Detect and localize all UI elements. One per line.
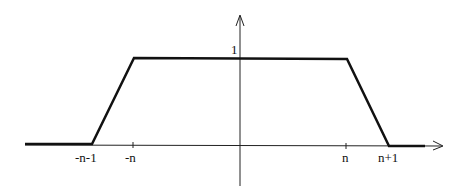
x-tick-label-neg-n: -n (125, 150, 136, 165)
trapezoid-function-diagram: 1 -n-1 -n n n+1 (0, 0, 466, 195)
x-tick-label-n: n (342, 150, 349, 165)
x-tick-label-n-plus-1: n+1 (378, 150, 398, 165)
x-tick-label-neg-n-minus-1: -n-1 (75, 150, 97, 165)
function-curve (25, 58, 425, 146)
y-tick-label-1: 1 (231, 42, 238, 57)
